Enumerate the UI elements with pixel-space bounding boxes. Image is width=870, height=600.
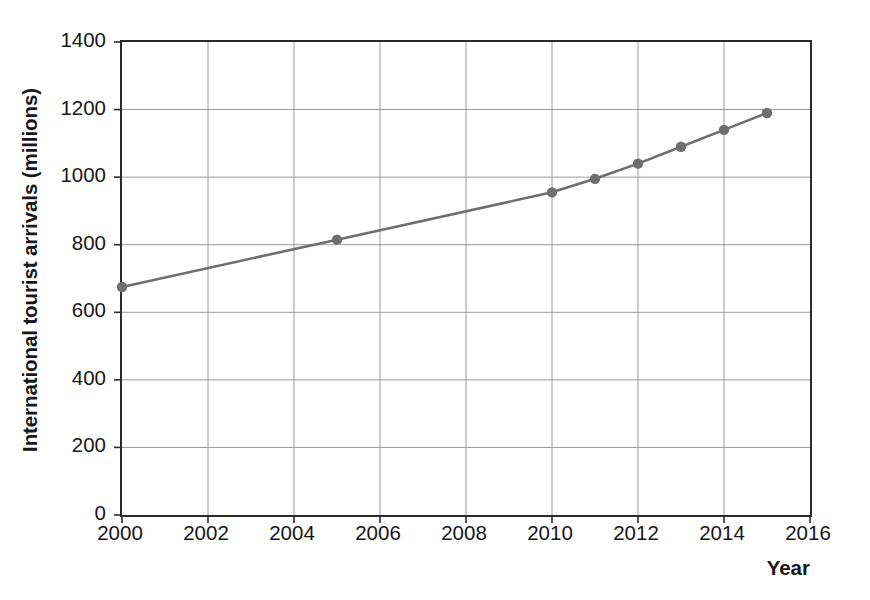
line-chart-figure: International tourist arrivals (millions… bbox=[0, 0, 870, 600]
x-tick-label: 2006 bbox=[355, 521, 401, 545]
y-tick-label: 1400 bbox=[60, 28, 106, 52]
x-tick-label: 2012 bbox=[613, 521, 659, 545]
x-tick-label: 2004 bbox=[269, 521, 315, 545]
y-tick-label: 200 bbox=[72, 433, 106, 457]
x-tick-label: 2010 bbox=[527, 521, 573, 545]
x-tick-label: 2002 bbox=[183, 521, 229, 545]
data-point-marker bbox=[117, 282, 127, 292]
data-series-layer bbox=[122, 42, 810, 515]
x-tick-label: 2014 bbox=[699, 521, 745, 545]
series-line-0 bbox=[122, 113, 767, 287]
data-point-marker bbox=[676, 142, 686, 152]
y-tick-label: 400 bbox=[72, 366, 106, 390]
y-tick-label: 600 bbox=[72, 298, 106, 322]
data-point-marker bbox=[332, 234, 342, 244]
y-tick-label: 1200 bbox=[60, 96, 106, 120]
x-tick-label: 2000 bbox=[97, 521, 143, 545]
data-point-marker bbox=[590, 174, 600, 184]
plot-area bbox=[120, 40, 812, 517]
x-axis-tick-labels: 200020022004200620082010201220142016 bbox=[120, 521, 808, 551]
x-tick-label: 2016 bbox=[785, 521, 831, 545]
x-axis-title-label: Year bbox=[767, 556, 810, 579]
x-tick-label: 2008 bbox=[441, 521, 487, 545]
y-axis-tick-labels: 0200400600800100012001400 bbox=[0, 40, 106, 513]
data-point-marker bbox=[547, 187, 557, 197]
y-tick-label: 800 bbox=[72, 231, 106, 255]
data-point-marker bbox=[762, 108, 772, 118]
data-point-marker bbox=[633, 158, 643, 168]
y-tick-label: 1000 bbox=[60, 163, 106, 187]
x-axis-title: Year bbox=[700, 556, 810, 580]
data-point-marker bbox=[719, 125, 729, 135]
